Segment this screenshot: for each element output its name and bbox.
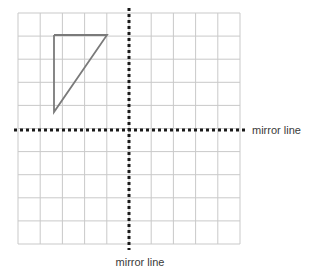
mirror-line-label-right: mirror line — [252, 124, 301, 136]
reflection-figure: mirror line mirror line — [0, 0, 312, 273]
figure-background — [0, 0, 312, 273]
figure-root: mirror line mirror line — [0, 0, 312, 273]
mirror-line-label-bottom: mirror line — [116, 256, 165, 268]
